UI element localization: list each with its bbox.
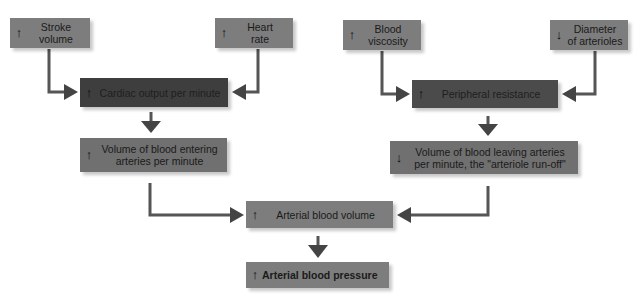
node-label: Peripheral resistance <box>428 88 558 100</box>
increase-arrow-icon: ↑ <box>343 29 359 41</box>
node-blood-viscosity: ↑ Bloodviscosity <box>343 20 421 50</box>
node-label-line: volume <box>39 33 73 45</box>
node-volume-leaving: ↓ Volume of blood leaving arteriesper mi… <box>390 141 578 174</box>
increase-arrow-icon: ↑ <box>80 149 96 161</box>
node-label-line: rate <box>251 33 269 45</box>
arrowhead-right-icon <box>230 207 244 223</box>
node-volume-entering: ↑ Volume of blood enteringarteries per m… <box>80 138 227 172</box>
node-diameter-arterioles: ↓ Diameterof arterioles <box>550 20 628 50</box>
node-label-line: per minute, the "arteriole run-off" <box>414 158 565 170</box>
decrease-arrow-icon: ↓ <box>390 152 406 164</box>
node-label-line: Volume of blood leaving arteries <box>415 146 564 158</box>
node-cardiac-output: ↑ Cardiac output per minute <box>80 78 228 107</box>
node-label-line: viscosity <box>368 35 408 47</box>
node-stroke-volume: ↑ Strokevolume <box>10 18 90 48</box>
arrowhead-right-icon <box>64 84 78 100</box>
increase-arrow-icon: ↑ <box>10 27 26 39</box>
arrowhead-right-icon <box>396 86 410 102</box>
arrowhead-down-icon <box>478 124 498 136</box>
flowchart-canvas: ↑ Strokevolume ↑ Heartrate ↑ Cardiac out… <box>0 0 641 306</box>
node-label-line: Diameter <box>574 23 617 35</box>
node-label-line: Blood <box>375 23 402 35</box>
node-label: Cardiac output per minute <box>96 87 228 99</box>
increase-arrow-icon: ↑ <box>215 27 231 39</box>
arrowhead-down-icon <box>308 245 328 258</box>
increase-arrow-icon: ↑ <box>246 209 262 221</box>
arrowhead-left-icon <box>397 207 411 223</box>
node-arterial-blood-pressure: ↑ Arterial blood pressure <box>246 262 389 288</box>
arrowhead-down-icon <box>141 121 161 133</box>
node-heart-rate: ↑ Heartrate <box>215 18 293 48</box>
node-label-line: of arterioles <box>568 35 623 47</box>
node-label-line: Volume of blood entering <box>101 143 217 155</box>
node-label: Arterial blood volume <box>262 209 393 221</box>
arrowhead-left-icon <box>562 86 576 102</box>
node-peripheral-resistance: ↑ Peripheral resistance <box>412 80 558 108</box>
node-label-line: arteries per minute <box>116 155 204 167</box>
increase-arrow-icon: ↑ <box>412 88 428 100</box>
increase-arrow-icon: ↑ <box>80 87 96 99</box>
increase-arrow-icon: ↑ <box>246 269 262 281</box>
node-arterial-blood-volume: ↑ Arterial blood volume <box>246 201 393 228</box>
node-label-line: Stroke <box>41 21 71 33</box>
arrowhead-left-icon <box>232 84 246 100</box>
node-label: Arterial blood pressure <box>262 269 389 281</box>
node-label-line: Heart <box>247 21 273 33</box>
decrease-arrow-icon: ↓ <box>550 29 566 41</box>
